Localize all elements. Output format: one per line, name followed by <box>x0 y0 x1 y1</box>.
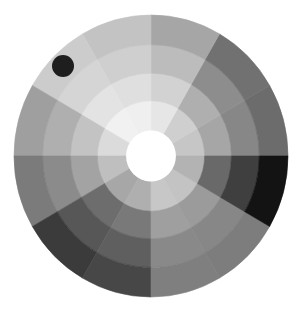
selection-marker-dot[interactable] <box>52 55 74 77</box>
color-wheel[interactable] <box>0 0 300 314</box>
center-hole <box>126 130 176 181</box>
